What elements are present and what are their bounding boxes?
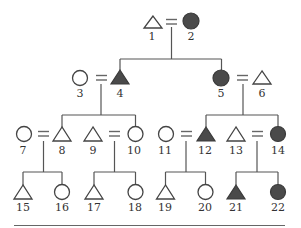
individual-3-female-circle	[73, 71, 88, 86]
label-9: 9	[90, 144, 97, 157]
individual-16-female-circle	[55, 185, 70, 200]
mating-line-9-10	[109, 132, 120, 137]
individual-1-male-triangle	[144, 16, 162, 28]
label-4: 4	[117, 87, 124, 100]
mating-line-5-6	[237, 76, 248, 81]
individual-8-male-triangle	[53, 127, 71, 141]
label-2: 2	[188, 30, 195, 43]
label-5: 5	[218, 87, 225, 100]
label-22: 22	[271, 201, 285, 214]
label-7: 7	[20, 144, 27, 157]
individual-15-male-triangle	[14, 185, 32, 199]
label-1: 1	[149, 30, 156, 43]
individual-22-female-affected-circle	[271, 185, 286, 200]
individual-14-female-affected-circle	[271, 127, 286, 142]
label-6: 6	[259, 87, 266, 100]
label-17: 17	[87, 201, 101, 214]
individual-2-female-affected-circle	[183, 13, 199, 29]
individual-17-male-triangle	[85, 185, 103, 199]
label-19: 19	[158, 201, 172, 214]
individual-6-male-triangle	[253, 71, 271, 84]
label-8: 8	[59, 144, 66, 157]
label-20: 20	[198, 201, 212, 214]
label-12: 12	[198, 144, 212, 157]
descent-line-3-4	[62, 84, 136, 127]
individual-11-female-circle	[159, 127, 174, 142]
individual-20-female-circle	[198, 185, 213, 200]
mating-line-3-4	[96, 76, 107, 81]
mating-line-13-14	[252, 132, 263, 137]
label-3: 3	[77, 87, 84, 100]
label-15: 15	[16, 201, 30, 214]
label-18: 18	[128, 201, 142, 214]
individual-10-female-circle	[128, 127, 143, 142]
individual-19-male-triangle	[157, 185, 175, 199]
individual-9-male-triangle	[84, 127, 102, 141]
mating-line-7-8	[38, 132, 49, 137]
individual-13-male-triangle	[227, 127, 245, 141]
individual-18-female-circle	[128, 185, 143, 200]
pedigree-chart: 1 2 3 4 5 6	[0, 0, 301, 228]
label-21: 21	[229, 201, 243, 214]
label-10: 10	[127, 144, 141, 157]
label-11: 11	[158, 144, 172, 157]
mating-line-11-12	[181, 132, 192, 137]
descent-line-1-2	[120, 27, 222, 70]
individual-5-female-affected-circle	[213, 70, 229, 86]
descent-line-7-8	[23, 141, 62, 185]
mating-line-1-2	[166, 20, 177, 25]
label-14: 14	[271, 144, 285, 157]
individual-12-male-affected-triangle	[197, 127, 215, 141]
individual-21-male-affected-triangle	[227, 185, 245, 199]
individual-7-female-circle	[17, 127, 32, 142]
label-16: 16	[55, 201, 69, 214]
label-13: 13	[229, 144, 243, 157]
individual-4-male-affected-triangle	[111, 70, 129, 84]
